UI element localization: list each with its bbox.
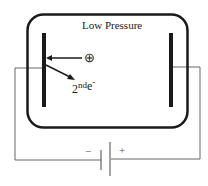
ion-arrow — [46, 55, 82, 61]
positive-ion-symbol: ⊕ — [84, 50, 95, 66]
secondary-electron-label: 2nde- — [72, 80, 95, 97]
electron-arrow — [46, 65, 75, 80]
low-pressure-chamber — [28, 15, 188, 128]
battery-positive-label: + — [119, 144, 125, 156]
anode-plate — [169, 33, 173, 107]
battery-icon — [101, 142, 110, 176]
chamber-label: Low Pressure — [82, 19, 142, 31]
cathode-plate — [42, 33, 46, 107]
battery-negative-label: − — [85, 145, 91, 157]
